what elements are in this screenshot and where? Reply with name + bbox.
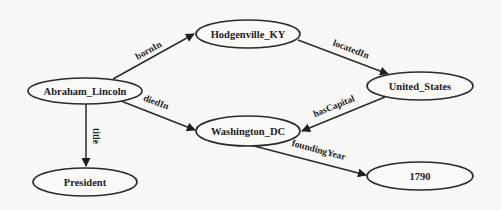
node-washington_dc: Washington_DC: [196, 116, 300, 146]
nodes-layer: Abraham_LincolnHodgenville_KYUnited_Stat…: [28, 20, 473, 196]
edge-label: foundingYear: [291, 138, 348, 162]
graph-canvas: bornInlocatedInhasCapitaldiedIntitlefoun…: [0, 0, 501, 210]
node-abraham_lincoln: Abraham_Lincoln: [28, 78, 142, 104]
node-label: Abraham_Lincoln: [44, 86, 127, 97]
node-president: President: [33, 168, 137, 196]
edge-title: title: [86, 104, 101, 166]
knowledge-graph-diagram: ​ ​ ​ ​ ​ ​ ​ ​ bornInlocatedInhasCapita…: [0, 0, 501, 210]
node-united_states: United_States: [367, 72, 473, 100]
node-label: Hodgenville_KY: [211, 29, 286, 40]
node-hodgenville_ky: Hodgenville_KY: [196, 20, 300, 48]
node-label: 1790: [410, 171, 431, 182]
edge-label: locatedIn: [332, 38, 372, 61]
edge-label: diedIn: [142, 93, 171, 112]
edge-hasCapital: hasCapital: [302, 93, 385, 131]
edge-arrow: [113, 34, 194, 79]
edge-label: hasCapital: [312, 93, 357, 119]
node-label: Washington_DC: [211, 126, 285, 137]
edges-layer: bornInlocatedInhasCapitaldiedIntitlefoun…: [86, 34, 388, 175]
node-label: President: [64, 177, 107, 188]
edge-bornIn: bornIn: [113, 34, 194, 79]
node-label: United_States: [389, 81, 451, 92]
node-year_1790: 1790: [367, 162, 473, 190]
edge-label: title: [91, 128, 101, 144]
edge-locatedIn: locatedIn: [298, 38, 388, 74]
